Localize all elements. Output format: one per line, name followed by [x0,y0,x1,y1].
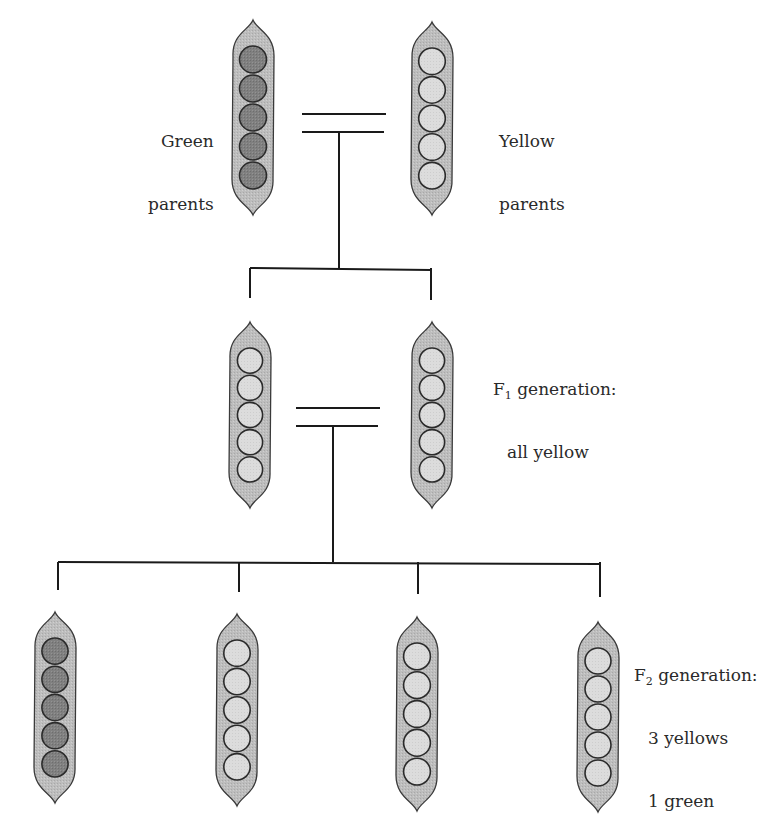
f1-prefix: F [493,379,505,399]
f1-label-line1: F1 generation: [493,379,617,400]
yellow-pea [237,457,262,482]
f2-generation-label: F2 generation: 3 yellows 1 green [634,623,758,831]
yellow-pea [404,758,431,785]
f1-subscript: 1 [505,389,512,402]
green-pea [42,751,68,777]
yellow-pea [419,162,446,189]
yellow-parents-label: Yellow parents [499,89,565,236]
yellow-pea [419,430,444,455]
green-parents-label: Green parents [148,89,214,236]
green-pea [42,666,68,692]
yellow-pea [419,105,446,132]
yellow-pea [585,648,611,674]
yellow-pea [224,754,250,780]
pea-pod-f2-pod-3 [396,617,438,811]
yellow-pea [404,729,431,756]
pea-pod-f2-pod-4 [577,622,619,812]
yellow-pea [419,348,444,373]
yellow-pea [237,348,262,373]
yellow-pea [404,672,431,699]
f2-subscript: 2 [646,675,653,688]
yellow-pea [419,402,444,427]
cross-symbol [296,408,380,426]
green-pea [240,46,267,73]
pea-pod-f2-pod-2 [216,614,258,806]
yellow-pea [404,643,431,670]
yellow-pea [224,697,250,723]
yellow-pea [224,725,250,751]
yellow-pea [585,732,611,758]
green-pea [42,723,68,749]
f2-line1-rest: generation: [653,665,758,685]
f2-label-line1: F2 generation: [634,665,758,686]
f1-generation-label: F1 generation: all yellow [493,337,617,484]
yellow-parents-label-line2: parents [499,194,565,215]
yellow-pea [224,640,250,666]
yellow-pea [419,77,446,104]
f2-label-line3: 1 green [634,791,758,812]
yellow-pea [419,48,446,75]
green-pea [42,638,68,664]
cross-symbol [302,114,386,132]
green-pea [240,104,267,131]
yellow-pea [585,676,611,702]
f2-label-line2: 3 yellows [634,728,758,749]
yellow-pea [404,701,431,728]
yellow-pea [224,668,250,694]
yellow-parents-label-line1: Yellow [499,131,565,152]
yellow-pea [237,430,262,455]
green-pea [42,694,68,720]
green-pea [240,162,267,189]
pea-pod-f1-pod-2 [411,322,453,508]
yellow-pea [237,375,262,400]
green-pea [240,75,267,102]
yellow-pea [419,375,444,400]
yellow-pea [419,457,444,482]
yellow-pea [585,760,611,786]
parents-to-f1-connector [250,132,431,300]
green-pea [240,133,267,160]
pea-pod-f1-pod-1 [229,322,271,508]
f1-label-line2: all yellow [493,442,617,463]
yellow-pea [585,704,611,730]
pea-pod-f2-pod-1 [34,612,76,803]
green-parents-label-line1: Green [148,131,214,152]
green-parents-label-line2: parents [148,194,214,215]
yellow-pea [419,134,446,161]
yellow-pea [237,402,262,427]
f1-line1-rest: generation: [512,379,617,399]
f2-prefix: F [634,665,646,685]
pea-pod-yellow-parent [411,22,453,215]
pea-pod-green-parent [232,20,274,215]
